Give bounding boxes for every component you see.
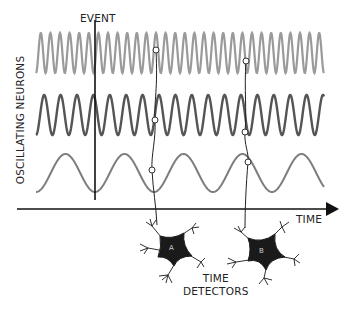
time-detectors-label: TIME DETECTORS <box>183 272 249 298</box>
tap-point-icon <box>149 167 155 173</box>
slow-oscillation-wave <box>36 154 324 192</box>
tap-point-icon <box>243 58 249 64</box>
oscillating-neurons-axis-label: OSCILLATING NEURONS <box>14 56 26 185</box>
detector-b-connections <box>242 58 251 228</box>
oscillator-time-detector-diagram: A B EVENT TIME OSCILLATING NEURONS TIME … <box>0 0 351 309</box>
tap-point-icon <box>152 117 158 123</box>
time-detectors-label-line1: TIME <box>183 272 249 285</box>
event-label: EVENT <box>80 12 116 24</box>
time-axis-arrow-icon <box>326 202 339 216</box>
svg-text:B: B <box>259 247 264 255</box>
svg-text:A: A <box>169 244 174 252</box>
tap-point-icon <box>153 47 159 53</box>
fast-oscillation-wave <box>36 33 324 73</box>
medium-oscillation-wave <box>36 95 324 135</box>
tap-point-icon <box>245 159 251 165</box>
tap-point-icon <box>242 129 248 135</box>
time-axis-label: TIME <box>296 213 322 225</box>
time-detectors-label-line2: DETECTORS <box>183 285 249 298</box>
